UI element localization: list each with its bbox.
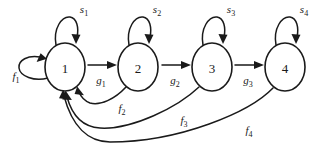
state-node-3[interactable]: 3 <box>192 43 232 91</box>
self-loop-1-path <box>55 17 77 45</box>
edge-f1-label: f1 <box>12 70 19 85</box>
edge-g3-label: g3 <box>243 74 253 89</box>
state-node-1[interactable]: 1 <box>45 43 85 91</box>
self-loop-2-label: s2 <box>153 3 161 18</box>
edge-f3: f3 <box>62 87 199 129</box>
state-node-4[interactable]: 4 <box>265 43 305 91</box>
self-loop-3: s3 <box>202 3 235 45</box>
self-loop-4-arrowhead <box>292 34 301 44</box>
edge-g1-arrowhead <box>107 61 117 69</box>
self-loop-1: s1 <box>55 3 88 45</box>
edge-f2-label-sub: 2 <box>122 108 126 117</box>
edge-f4-label: f4 <box>245 124 252 139</box>
self-loop-2-path <box>128 17 150 45</box>
edge-g3: g3 <box>235 61 264 89</box>
self-loop-2-label-sub: 2 <box>157 9 161 18</box>
self-loop-4-label-sub: 4 <box>304 9 308 18</box>
edge-f1-path <box>19 57 48 80</box>
self-loop-3-path <box>202 17 224 45</box>
self-loop-1-label: s1 <box>80 3 88 18</box>
self-loop-4-path <box>275 17 297 45</box>
edge-g3-label-sub: 3 <box>249 80 253 89</box>
state-transition-diagram-canvas: f4 f3 f2 f1 <box>0 0 323 149</box>
self-loop-2: s2 <box>128 3 161 45</box>
state-diagram-figure: f4 f3 f2 f1 <box>0 0 323 149</box>
edge-f4-path <box>64 88 273 142</box>
edge-g1: g1 <box>88 61 117 89</box>
edge-g1-label: g1 <box>96 74 106 89</box>
self-loop-2-arrowhead <box>145 34 154 44</box>
state-node-2-label: 2 <box>135 61 142 76</box>
self-loop-3-arrowhead <box>219 34 228 44</box>
edge-f3-label: f3 <box>180 114 187 129</box>
edge-f2-label: f2 <box>118 102 125 117</box>
edge-g1-label-sub: 1 <box>102 80 106 89</box>
self-loop-3-label: s3 <box>227 3 235 18</box>
edge-g2-label-sub: 2 <box>176 80 180 89</box>
state-node-1-label: 1 <box>62 61 69 76</box>
edge-g2: g2 <box>162 61 191 89</box>
self-loop-1-label-sub: 1 <box>84 9 88 18</box>
edge-f3-label-sub: 3 <box>184 120 188 129</box>
state-node-4-label: 4 <box>282 61 289 76</box>
self-loop-4-label: s4 <box>300 3 308 18</box>
self-loop-4: s4 <box>275 3 308 45</box>
state-node-3-label: 3 <box>209 61 216 76</box>
self-loop-1-arrowhead <box>72 34 81 44</box>
edge-f1-label-sub: 1 <box>16 76 20 85</box>
edge-f4-label-sub: 4 <box>249 130 253 139</box>
edge-g3-arrowhead <box>254 61 264 69</box>
edge-f3-path <box>67 87 199 128</box>
edge-f4: f4 <box>59 88 273 142</box>
self-loop-3-label-sub: 3 <box>231 9 235 18</box>
state-node-2[interactable]: 2 <box>118 43 158 91</box>
edge-f1: f1 <box>12 53 48 85</box>
edge-g2-arrowhead <box>181 61 191 69</box>
edge-g2-label: g2 <box>170 74 180 89</box>
edge-f2: f2 <box>75 86 126 117</box>
